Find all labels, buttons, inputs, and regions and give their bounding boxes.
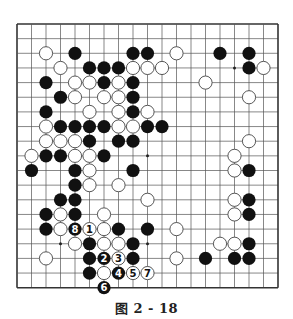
- white-stone: [199, 76, 212, 89]
- white-stone: [54, 135, 67, 148]
- black-stone: [242, 237, 255, 250]
- black-stone: [126, 135, 139, 148]
- black-stone: [112, 223, 125, 236]
- white-stone: [112, 91, 125, 104]
- black-stone: [83, 237, 96, 250]
- black-stone: [228, 252, 241, 265]
- black-stone: [242, 252, 255, 265]
- black-stone: [126, 164, 139, 177]
- white-stone: [228, 193, 241, 206]
- black-stone: [83, 61, 96, 74]
- black-stone: [39, 76, 52, 89]
- black-stone: [126, 252, 139, 265]
- black-stone: [97, 61, 110, 74]
- go-board-diagram: 81234576: [0, 0, 293, 300]
- white-stone: [170, 252, 183, 265]
- black-stone: [213, 47, 226, 60]
- black-stone: [141, 47, 154, 60]
- move-number: 5: [130, 268, 137, 279]
- white-stone: [68, 91, 81, 104]
- black-stone: [199, 252, 212, 265]
- black-stone: [54, 193, 67, 206]
- black-stone: [126, 105, 139, 118]
- black-stone: [242, 47, 255, 60]
- black-stone: [112, 135, 125, 148]
- black-stone: [126, 47, 139, 60]
- white-stone: [141, 61, 154, 74]
- black-stone: [112, 61, 125, 74]
- black-stone: [68, 193, 81, 206]
- figure-caption: 图 2 - 18: [0, 298, 293, 317]
- black-stone: [54, 120, 67, 133]
- white-stone: 5: [126, 266, 139, 279]
- white-stone: [54, 61, 67, 74]
- white-stone: [83, 164, 96, 177]
- black-stone: [242, 193, 255, 206]
- white-stone: [112, 237, 125, 250]
- black-stone: [97, 120, 110, 133]
- black-stone: [242, 208, 255, 221]
- star-point: [233, 66, 236, 69]
- black-stone: [242, 61, 255, 74]
- white-stone: [242, 91, 255, 104]
- black-stone: [126, 76, 139, 89]
- move-number: 1: [86, 224, 93, 235]
- star-point: [146, 242, 149, 245]
- black-stone: [25, 164, 38, 177]
- black-stone: [68, 208, 81, 221]
- black-stone: 8: [68, 223, 81, 236]
- white-stone: [257, 61, 270, 74]
- white-stone: [68, 237, 81, 250]
- black-stone: [126, 91, 139, 104]
- white-stone: [228, 208, 241, 221]
- white-stone: [97, 266, 110, 279]
- white-stone: [68, 76, 81, 89]
- white-stone: [68, 135, 81, 148]
- move-number: 4: [115, 268, 122, 279]
- white-stone: [112, 120, 125, 133]
- white-stone: [228, 149, 241, 162]
- white-stone: [242, 135, 255, 148]
- white-stone: [112, 76, 125, 89]
- white-stone: [54, 208, 67, 221]
- white-stone: [170, 223, 183, 236]
- white-stone: 1: [83, 223, 96, 236]
- white-stone: [228, 237, 241, 250]
- white-stone: [97, 237, 110, 250]
- black-stone: [54, 149, 67, 162]
- black-stone: 6: [97, 281, 110, 294]
- black-stone: [39, 208, 52, 221]
- white-stone: [112, 105, 125, 118]
- move-number: 3: [115, 253, 122, 264]
- move-number: 8: [72, 224, 79, 235]
- white-stone: [39, 135, 52, 148]
- white-stone: [213, 237, 226, 250]
- black-stone: 4: [112, 266, 125, 279]
- white-stone: [97, 223, 110, 236]
- move-number: 7: [144, 268, 151, 279]
- white-stone: [39, 120, 52, 133]
- white-stone: [54, 223, 67, 236]
- white-stone: [155, 61, 168, 74]
- black-stone: [68, 164, 81, 177]
- black-stone: [68, 47, 81, 60]
- white-stone: [170, 47, 183, 60]
- white-stone: [39, 252, 52, 265]
- black-stone: [97, 149, 110, 162]
- star-point: [59, 242, 62, 245]
- star-point: [146, 154, 149, 157]
- white-stone: [83, 179, 96, 192]
- black-stone: [68, 120, 81, 133]
- white-stone: [228, 164, 241, 177]
- black-stone: [39, 149, 52, 162]
- black-stone: [141, 120, 154, 133]
- white-stone: [97, 91, 110, 104]
- black-stone: [83, 135, 96, 148]
- white-stone: [83, 105, 96, 118]
- go-board: 81234576: [0, 0, 293, 300]
- black-stone: [54, 91, 67, 104]
- black-stone: [97, 76, 110, 89]
- move-number: 6: [101, 282, 108, 293]
- black-stone: [83, 266, 96, 279]
- white-stone: [97, 208, 110, 221]
